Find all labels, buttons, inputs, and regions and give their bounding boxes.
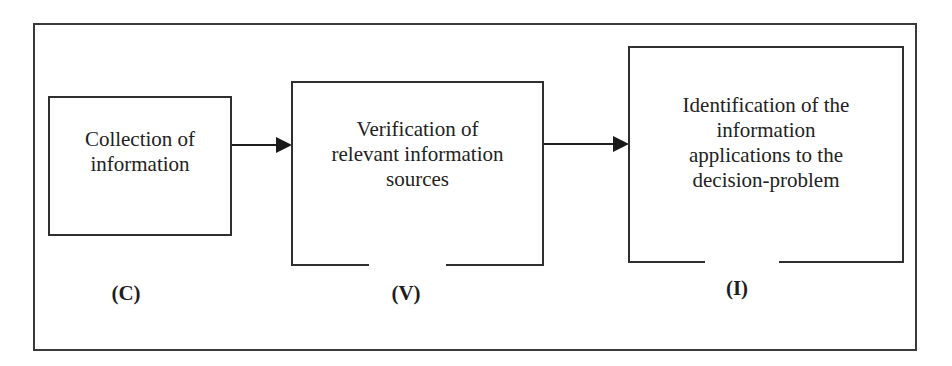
- step-box-identification: Identification of the information applic…: [628, 46, 904, 263]
- step-box-identification-bottom-right: [779, 261, 904, 263]
- arrow-v-to-i-line: [544, 143, 614, 145]
- step-box-collection-bottom: [48, 234, 232, 236]
- arrow-c-to-v-head-icon: [276, 137, 292, 153]
- step-box-collection: Collection of information: [48, 96, 232, 236]
- step-box-verification: Verification of relevant information sou…: [291, 81, 544, 266]
- step-box-verification-bottom-left: [291, 264, 369, 266]
- step-box-identification-bottom-left: [628, 261, 705, 263]
- arrow-c-to-v-line: [232, 144, 277, 146]
- step-label-i: (I): [726, 276, 748, 301]
- step-box-verification-bottom-right: [446, 264, 544, 266]
- step-label-v: (V): [391, 281, 420, 306]
- arrow-v-to-i-head-icon: [613, 136, 629, 152]
- step-label-c: (C): [111, 281, 140, 306]
- step-text-collection: Collection of information: [85, 127, 195, 177]
- step-text-verification: Verification of relevant information sou…: [331, 117, 503, 192]
- step-text-identification: Identification of the information applic…: [683, 93, 850, 193]
